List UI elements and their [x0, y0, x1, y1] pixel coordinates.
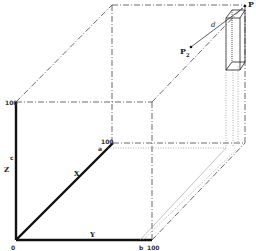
diagram-svg: d P 2 P Z X Y 100 c 100 a 100 b 0	[0, 0, 256, 251]
b-projection	[143, 150, 236, 240]
point-p2	[190, 46, 193, 49]
point-p	[244, 5, 247, 8]
distance-line	[191, 8, 243, 47]
point-p-label: P	[248, 0, 254, 9]
origin-label: 0	[11, 244, 15, 251]
z-tick-label: c	[10, 154, 14, 161]
point-p2-subscript: 2	[186, 52, 190, 58]
projection-lines	[108, 66, 238, 240]
z-max-label: 100	[5, 99, 18, 106]
x-max-label: 100	[101, 138, 114, 145]
z-axis-label: Z	[4, 165, 9, 174]
axes	[16, 102, 152, 240]
left-top-diagonal	[16, 5, 112, 102]
distance-label: d	[211, 21, 216, 29]
y-max-label: 100	[147, 244, 160, 251]
bottom-right-diagonal	[152, 143, 245, 240]
y-axis-label: Y	[89, 230, 96, 239]
b-projection-solid	[140, 148, 226, 240]
x-axis-label: X	[74, 169, 80, 178]
3d-coordinate-diagram: d P 2 P Z X Y 100 c 100 a 100 b 0	[0, 0, 256, 251]
x-tick-label: a	[98, 145, 102, 152]
y-tick-label: b	[139, 244, 144, 251]
prism-bottom	[226, 62, 245, 70]
right-top-diagonal	[152, 5, 245, 102]
x-axis	[16, 143, 113, 240]
